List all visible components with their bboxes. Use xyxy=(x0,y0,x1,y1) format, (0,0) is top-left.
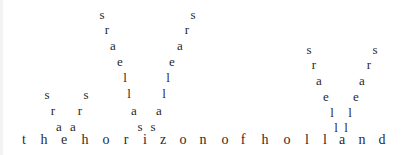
rising-letter: r xyxy=(51,104,55,117)
rising-letter: a xyxy=(177,39,183,52)
rising-letter: r xyxy=(312,58,316,71)
baseline-letter: l xyxy=(305,133,309,147)
baseline-letter: n xyxy=(200,133,207,147)
rising-letter: e xyxy=(169,55,175,68)
rising-letter: s xyxy=(137,120,142,133)
baseline-letter: z xyxy=(160,133,166,147)
rising-letter: l xyxy=(127,87,131,100)
left-edge-shade xyxy=(0,0,3,155)
rising-letter: r xyxy=(367,58,371,71)
baseline-letter: e xyxy=(61,133,67,147)
rising-letter: e xyxy=(323,90,329,103)
rising-letter: s xyxy=(372,43,377,56)
rising-letter: l xyxy=(334,121,338,134)
rising-letter: r xyxy=(105,23,109,36)
rising-letter: a xyxy=(156,104,162,117)
rising-letter: a xyxy=(56,120,62,133)
rising-letter: s xyxy=(190,8,195,21)
rising-letter: l xyxy=(166,71,170,84)
rising-letter: a xyxy=(70,120,76,133)
rising-letter: a xyxy=(316,74,322,87)
concrete-poem-canvas: thehorizonofhollandsrasrasraellassraella… xyxy=(0,0,405,155)
baseline-letter: o xyxy=(284,133,291,147)
baseline-letter: l xyxy=(323,133,327,147)
rising-letter: r xyxy=(78,104,82,117)
baseline-letter: o xyxy=(222,133,229,147)
baseline-letter: h xyxy=(82,133,89,147)
baseline-letter: n xyxy=(359,133,366,147)
baseline-letter: r xyxy=(124,133,129,147)
rising-letter: e xyxy=(353,90,359,103)
rising-letter: s xyxy=(83,88,88,101)
rising-letter: s xyxy=(306,43,311,56)
rising-letter: e xyxy=(117,55,123,68)
baseline-letter: f xyxy=(241,133,246,147)
rising-letter: s xyxy=(150,120,155,133)
rising-letter: s xyxy=(44,88,49,101)
baseline-letter: d xyxy=(379,133,386,147)
rising-letter: s xyxy=(99,8,104,21)
rising-letter: a xyxy=(131,104,137,117)
baseline-letter: t xyxy=(22,133,26,147)
baseline-letter: i xyxy=(143,133,147,147)
baseline-letter: a xyxy=(339,133,345,147)
rising-letter: r xyxy=(185,23,189,36)
rising-letter: l xyxy=(123,71,127,84)
baseline-letter: o xyxy=(180,133,187,147)
baseline-letter: o xyxy=(103,133,110,147)
baseline-letter: h xyxy=(262,133,269,147)
baseline-letter: h xyxy=(41,133,48,147)
rising-letter: l xyxy=(162,87,166,100)
rising-letter: l xyxy=(348,106,352,119)
rising-letter: l xyxy=(344,121,348,134)
rising-letter: l xyxy=(330,106,334,119)
rising-letter: a xyxy=(359,74,365,87)
rising-letter: a xyxy=(110,39,116,52)
